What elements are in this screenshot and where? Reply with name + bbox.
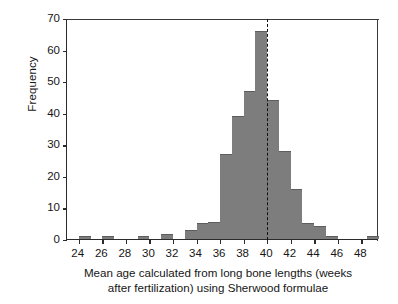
- histogram-bar: [367, 236, 379, 239]
- y-axis-tick-label: 60: [26, 44, 60, 56]
- histogram-bar: [255, 31, 267, 239]
- bars-container: [67, 19, 378, 239]
- histogram-bar: [185, 230, 197, 239]
- y-axis-tick: [63, 114, 67, 115]
- y-axis-tick: [63, 208, 67, 209]
- caption-line-1: Mean age calculated from long bone lengt…: [58, 266, 378, 281]
- x-axis-tick: [126, 240, 127, 244]
- histogram-bar: [220, 154, 232, 239]
- y-axis-tick-label: 30: [26, 138, 60, 150]
- x-axis-tick: [197, 240, 198, 244]
- x-axis-tick: [220, 240, 221, 244]
- x-axis-tick: [314, 240, 315, 244]
- y-axis-tick-label: 20: [26, 170, 60, 182]
- histogram-bar: [232, 116, 244, 239]
- histogram-bar: [79, 236, 91, 239]
- y-axis-tick-label: 70: [26, 12, 60, 24]
- histogram-bar: [279, 151, 291, 239]
- histogram-bar: [197, 223, 209, 239]
- x-axis-tick: [361, 240, 362, 244]
- y-axis-tick: [63, 51, 67, 52]
- histogram-bar: [326, 236, 338, 239]
- x-axis-tick: [244, 240, 245, 244]
- y-axis-tick: [63, 240, 67, 241]
- y-axis-tick: [63, 82, 67, 83]
- histogram-bar: [302, 223, 314, 239]
- histogram-bar: [244, 91, 256, 239]
- y-axis-tick: [63, 145, 67, 146]
- plot-area: [66, 19, 378, 240]
- x-axis-caption: Mean age calculated from long bone lengt…: [58, 266, 378, 295]
- x-axis-tick: [338, 240, 339, 244]
- x-axis-tick: [267, 240, 268, 244]
- histogram-figure: Frequency 010203040506070 24262830323436…: [0, 0, 398, 304]
- histogram-bar: [314, 226, 326, 239]
- x-axis-tick: [149, 240, 150, 244]
- y-axis-tick: [63, 19, 67, 20]
- reference-line: [267, 19, 268, 240]
- histogram-bar: [138, 236, 150, 239]
- x-axis-tick: [79, 240, 80, 244]
- histogram-bar: [267, 100, 279, 239]
- y-axis-tick-label: 10: [26, 201, 60, 213]
- histogram-bar: [102, 236, 114, 239]
- y-axis-tick-label: 40: [26, 107, 60, 119]
- y-axis-tick: [63, 177, 67, 178]
- y-axis-tick-label: 50: [26, 75, 60, 87]
- histogram-bar: [208, 222, 220, 239]
- caption-line-2: after fertilization) using Sherwood form…: [58, 281, 378, 296]
- y-axis-tick-label: 0: [26, 233, 60, 245]
- x-axis-tick: [173, 240, 174, 244]
- x-axis-tick-label: 48: [345, 247, 375, 259]
- x-axis-tick: [102, 240, 103, 244]
- histogram-bar: [161, 234, 173, 239]
- x-axis-tick: [291, 240, 292, 244]
- histogram-bar: [291, 189, 303, 240]
